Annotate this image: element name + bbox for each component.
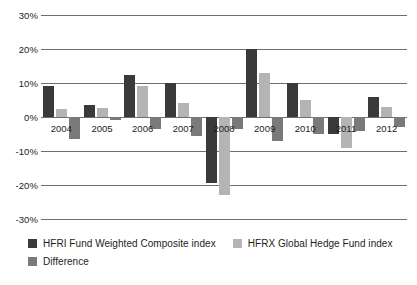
x-tick-label: 2004	[51, 123, 72, 134]
bar	[84, 105, 95, 117]
x-tick-label: 2008	[213, 123, 234, 134]
legend-item-2[interactable]: Difference	[28, 256, 89, 267]
bar-group-2008	[206, 15, 243, 219]
bar-group-2007	[165, 15, 202, 219]
x-tick-label: 2011	[336, 123, 356, 134]
x-tick-label: 2006	[132, 123, 153, 134]
y-tick-label: -30%	[15, 214, 38, 225]
x-tick-label: 2010	[295, 123, 316, 134]
chart-page: 30%20%10%0%-10%-20%-30% 2004200520062007…	[0, 0, 417, 285]
bar	[368, 97, 379, 117]
y-tick-label: -20%	[15, 180, 38, 191]
legend-swatch-icon-0	[28, 239, 37, 248]
bar-group-2006	[124, 15, 161, 219]
x-tick-label: 2005	[91, 123, 112, 134]
chart-legend: HFRI Fund Weighted Composite index HFRX …	[28, 234, 408, 270]
x-tick-label: 2012	[376, 123, 397, 134]
bar	[178, 103, 189, 117]
bar	[97, 108, 108, 117]
x-tick-label: 2007	[173, 123, 194, 134]
bar	[124, 75, 135, 118]
legend-label-2: Difference	[43, 256, 89, 267]
legend-label-0: HFRI Fund Weighted Composite index	[43, 238, 216, 249]
legend-item-1[interactable]: HFRX Global Hedge Fund index	[233, 238, 393, 249]
y-tick-label: 0%	[24, 112, 38, 123]
gridline--30%	[41, 219, 407, 220]
bar	[137, 86, 148, 117]
legend-row-secondary: Difference	[28, 252, 408, 270]
x-tick-label: 2009	[254, 123, 275, 134]
legend-swatch-icon-1	[233, 239, 242, 248]
bar-group-2005	[84, 15, 121, 219]
y-tick-label: 10%	[19, 78, 38, 89]
bar	[300, 100, 311, 117]
legend-label-1: HFRX Global Hedge Fund index	[248, 238, 393, 249]
y-tick-label: -10%	[15, 146, 38, 157]
bar-group-2011	[328, 15, 365, 219]
y-tick-label: 20%	[19, 44, 38, 55]
bar	[165, 83, 176, 117]
bar-group-2010	[287, 15, 324, 219]
bar	[381, 107, 392, 117]
legend-item-0[interactable]: HFRI Fund Weighted Composite index	[28, 238, 216, 249]
bar-group-2009	[246, 15, 283, 219]
bar-group-2004	[43, 15, 80, 219]
bar	[259, 73, 270, 117]
bar	[246, 49, 257, 117]
bar	[56, 109, 67, 118]
y-tick-label: 30%	[19, 10, 38, 21]
bar	[287, 83, 298, 117]
bar	[43, 86, 54, 117]
bar	[110, 117, 121, 120]
bar-group-2012	[368, 15, 405, 219]
legend-row-primary: HFRI Fund Weighted Composite index HFRX …	[28, 234, 408, 252]
legend-swatch-icon-2	[28, 257, 37, 266]
plot-area	[41, 15, 407, 219]
